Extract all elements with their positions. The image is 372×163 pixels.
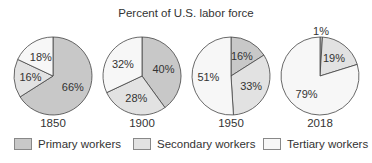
tertiary-swatch-icon [263, 138, 281, 150]
slice-label: 16% [19, 71, 41, 83]
slice-label: 18% [30, 51, 52, 63]
slice-label: 1% [313, 25, 329, 37]
legend-label: Secondary workers [157, 138, 255, 150]
legend-item-primary: Primary workers [14, 138, 121, 150]
legend-item-tertiary: Tertiary workers [263, 138, 368, 150]
year-label: 1950 [218, 117, 244, 129]
pie-1850: 66%16%18%1850 [14, 37, 92, 129]
legend-label: Tertiary workers [287, 138, 368, 150]
slice-label: 51% [197, 71, 219, 83]
slice-label: 79% [296, 88, 318, 100]
slice-label: 66% [62, 81, 84, 93]
year-label: 1850 [40, 117, 66, 129]
slice-label: 16% [231, 50, 253, 62]
slice-label: 19% [323, 52, 345, 64]
slice-label: 40% [152, 63, 174, 75]
pie-1950: 16%33%51%1950 [192, 37, 270, 129]
year-label: 2018 [307, 117, 333, 129]
slice-label: 33% [240, 80, 262, 92]
legend-item-secondary: Secondary workers [133, 138, 255, 150]
slice-label: 28% [125, 92, 147, 104]
year-label: 1900 [129, 117, 155, 129]
pie-charts: 66%16%18%185040%28%32%190016%33%51%19501… [0, 0, 372, 135]
primary-swatch-icon [14, 138, 32, 150]
pie-2018: 1%19%79%2018 [281, 25, 359, 129]
legend: Primary workers Secondary workers Tertia… [0, 138, 372, 158]
pie-1900: 40%28%32%1900 [103, 37, 181, 129]
legend-label: Primary workers [38, 138, 121, 150]
slice-label: 32% [112, 58, 134, 70]
secondary-swatch-icon [133, 138, 151, 150]
